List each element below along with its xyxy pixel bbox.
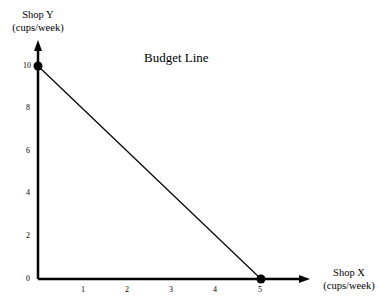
x-tick-label: 2 bbox=[125, 285, 129, 294]
y-tick-label: 8 bbox=[26, 103, 30, 112]
x-axis-arrow-icon bbox=[299, 275, 310, 283]
x-intercept-point bbox=[257, 275, 266, 284]
x-axis-label-line1: Shop X bbox=[318, 266, 379, 279]
x-tick-label: 3 bbox=[169, 285, 173, 294]
y-axis-label: Shop Y (cups/week) bbox=[3, 8, 73, 34]
x-tick-label: 5 bbox=[258, 285, 262, 294]
chart-canvas bbox=[0, 0, 379, 307]
y-axis-label-line2: (cups/week) bbox=[3, 21, 73, 34]
x-axis-label-line2: (cups/week) bbox=[318, 279, 379, 292]
y-intercept-point bbox=[34, 62, 43, 71]
x-tick-label: 4 bbox=[213, 285, 217, 294]
y-tick-label: 2 bbox=[26, 231, 30, 240]
x-tick-label: 1 bbox=[81, 285, 85, 294]
y-tick-label: 4 bbox=[26, 188, 30, 197]
y-axis-label-line1: Shop Y bbox=[3, 8, 73, 21]
chart-title: Budget Line bbox=[144, 50, 209, 66]
y-tick-label: 0 bbox=[26, 274, 30, 283]
y-tick-label: 6 bbox=[26, 146, 30, 155]
budget-line bbox=[38, 66, 261, 279]
y-tick-label: 10 bbox=[23, 61, 31, 70]
x-axis-label: Shop X (cups/week) bbox=[318, 266, 379, 292]
y-axis-arrow-icon bbox=[34, 40, 42, 51]
